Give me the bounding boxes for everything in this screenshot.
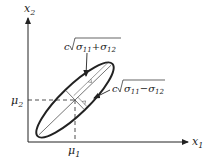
x-axis-label: x1 <box>192 135 203 150</box>
svg-text:σ11+σ12: σ11+σ12 <box>76 41 116 54</box>
minor-axis-annotation: c σ11−σ12 <box>112 80 165 96</box>
ellipse-diagram: x2 x1 μ2 μ1 c σ11+σ12 c σ11−σ12 <box>0 0 206 163</box>
major-axis-annotation: c σ11+σ12 <box>64 38 121 54</box>
svg-text:σ11−σ12: σ11−σ12 <box>124 83 164 96</box>
mu2-label: μ2 <box>11 94 23 109</box>
mu1-label: μ1 <box>68 144 80 159</box>
y-axis-label: x2 <box>24 2 35 17</box>
svg-text:c: c <box>112 83 118 94</box>
svg-text:c: c <box>64 41 70 52</box>
